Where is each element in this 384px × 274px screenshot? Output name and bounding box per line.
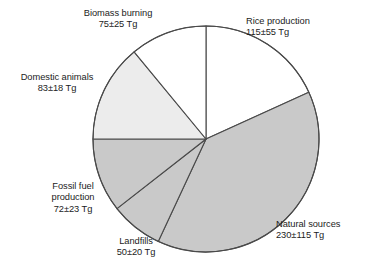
pie-label-domestic-animals: Domestic animals 83±18 Tg [2,72,112,95]
pie-label-fossil-fuel-production: Fossil fuel production 72±23 Tg [26,181,120,215]
pie-chart-figure: Rice production 115±55 Tg Biomass burnin… [0,0,384,274]
pie-label-rice-production-name: Rice production [246,16,310,27]
pie-label-landfills-value: 50±20 Tg [90,247,182,258]
pie-label-natural-sources: Natural sources 230±115 Tg [276,219,340,242]
pie-label-rice-production-value: 115±55 Tg [246,27,310,38]
pie-label-rice-production: Rice production 115±55 Tg [246,16,310,39]
pie-label-domestic-animals-value: 83±18 Tg [2,83,112,94]
pie-label-fossil-fuel-production-value: 72±23 Tg [26,204,120,215]
pie-label-fossil-fuel-production-name2: production [26,192,120,203]
pie-label-landfills: Landfills 50±20 Tg [90,236,182,259]
pie-label-biomass-burning: Biomass burning 75±25 Tg [60,8,176,31]
pie-label-natural-sources-value: 230±115 Tg [276,230,340,241]
pie-label-biomass-burning-value: 75±25 Tg [60,19,176,30]
pie-label-landfills-name: Landfills [90,236,182,247]
pie-label-domestic-animals-name: Domestic animals [2,72,112,83]
pie-label-fossil-fuel-production-name: Fossil fuel [26,181,120,192]
pie-label-natural-sources-name: Natural sources [276,219,340,230]
pie-label-biomass-burning-name: Biomass burning [60,8,176,19]
